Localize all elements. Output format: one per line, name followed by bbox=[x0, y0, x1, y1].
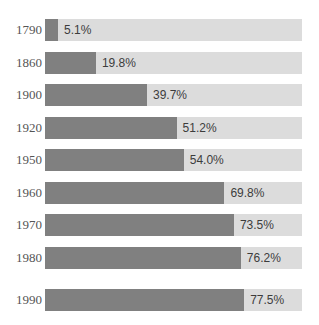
bar-fill bbox=[45, 289, 244, 311]
bar-track: 39.7% bbox=[45, 84, 302, 106]
bar-fill bbox=[45, 247, 241, 269]
value-label: 5.1% bbox=[58, 19, 91, 41]
bar-fill bbox=[45, 19, 58, 41]
bar-fill bbox=[45, 117, 177, 139]
bar-fill bbox=[45, 84, 147, 106]
bar-track: 69.8% bbox=[45, 182, 302, 204]
chart-row: 1860 19.8% bbox=[0, 52, 319, 74]
bar-track: 76.2% bbox=[45, 247, 302, 269]
category-label: 1790 bbox=[0, 19, 42, 41]
value-label: 39.7% bbox=[147, 84, 187, 106]
chart-row: 1960 69.8% bbox=[0, 182, 319, 204]
value-label: 51.2% bbox=[177, 117, 217, 139]
value-label: 69.8% bbox=[224, 182, 264, 204]
category-label: 1960 bbox=[0, 182, 42, 204]
bar-track: 77.5% bbox=[45, 289, 302, 311]
bar-fill bbox=[45, 52, 96, 74]
bar-track: 73.5% bbox=[45, 214, 302, 236]
value-label: 76.2% bbox=[241, 247, 281, 269]
bar-track: 5.1% bbox=[45, 19, 302, 41]
chart-row: 1980 76.2% bbox=[0, 247, 319, 269]
bar-fill bbox=[45, 149, 184, 171]
category-label: 1980 bbox=[0, 247, 42, 269]
category-label: 1860 bbox=[0, 52, 42, 74]
category-label: 1990 bbox=[0, 289, 42, 311]
bar-fill bbox=[45, 182, 224, 204]
value-label: 77.5% bbox=[244, 289, 284, 311]
category-label: 1970 bbox=[0, 214, 42, 236]
value-label: 73.5% bbox=[234, 214, 274, 236]
value-label: 19.8% bbox=[96, 52, 136, 74]
horizontal-bar-chart: 1790 5.1% 1860 19.8% 1900 39.7% 1920 51.… bbox=[0, 0, 319, 325]
chart-row: 1790 5.1% bbox=[0, 19, 319, 41]
value-label: 54.0% bbox=[184, 149, 224, 171]
chart-row: 1950 54.0% bbox=[0, 149, 319, 171]
chart-row: 1970 73.5% bbox=[0, 214, 319, 236]
chart-row: 1900 39.7% bbox=[0, 84, 319, 106]
chart-row: 1990 77.5% bbox=[0, 289, 319, 311]
category-label: 1900 bbox=[0, 84, 42, 106]
chart-row: 1920 51.2% bbox=[0, 117, 319, 139]
bar-fill bbox=[45, 214, 234, 236]
bar-track: 54.0% bbox=[45, 149, 302, 171]
bar-track: 51.2% bbox=[45, 117, 302, 139]
category-label: 1920 bbox=[0, 117, 42, 139]
bar-track: 19.8% bbox=[45, 52, 302, 74]
category-label: 1950 bbox=[0, 149, 42, 171]
